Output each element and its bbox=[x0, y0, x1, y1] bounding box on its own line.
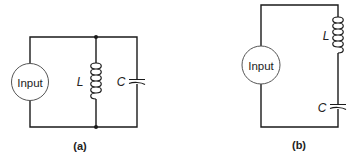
capacitor-b-icon bbox=[330, 105, 346, 110]
capacitor-label-b: C bbox=[318, 101, 327, 115]
caption-a: (a) bbox=[73, 140, 87, 152]
circuit-a: Input L C (a) bbox=[12, 35, 146, 152]
input-label-b: Input bbox=[248, 60, 274, 72]
junction-dot-a-bottom bbox=[94, 125, 98, 129]
inductor-label-a: L bbox=[77, 75, 84, 89]
inductor-label-b: L bbox=[323, 29, 330, 43]
inductor-b-icon bbox=[333, 17, 344, 53]
circuit-figure: Input L C (a) Input L C (b) bbox=[0, 0, 358, 161]
caption-b: (b) bbox=[292, 139, 306, 151]
input-label-a: Input bbox=[17, 77, 43, 89]
inductor-a-icon bbox=[91, 63, 102, 99]
capacitor-label-a: C bbox=[117, 75, 126, 89]
junction-dot-a-top bbox=[94, 35, 98, 39]
circuit-b: Input L C (b) bbox=[242, 5, 346, 151]
